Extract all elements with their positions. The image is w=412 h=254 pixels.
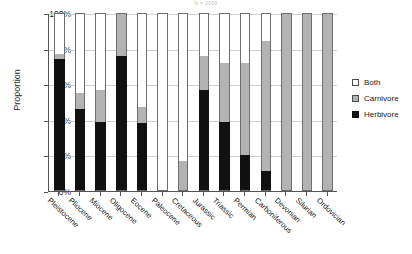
bar-segment-carnivore[interactable] — [281, 13, 292, 191]
bar-segment-carnivore[interactable] — [178, 161, 189, 191]
bar-column[interactable] — [281, 13, 292, 191]
gridline — [49, 14, 337, 15]
bar-segment-herbivore[interactable] — [261, 171, 272, 191]
bar-column[interactable] — [322, 13, 333, 191]
bar-segment-herbivore[interactable] — [219, 122, 230, 191]
bar-column[interactable] — [261, 13, 272, 191]
chart-title: N = 2000 — [0, 0, 412, 6]
legend-swatch-icon — [352, 95, 359, 102]
legend-item-carnivore[interactable]: Carnivore — [352, 94, 399, 103]
bar-segment-carnivore[interactable] — [137, 107, 148, 123]
legend-label: Carnivore — [364, 94, 399, 103]
x-tick-mark — [100, 192, 101, 196]
chart-figure: N = 2000 Proportion 0%20%40%60%80%100% P… — [0, 0, 412, 254]
bar-segment-both[interactable] — [95, 13, 106, 90]
x-tick-mark — [223, 192, 224, 196]
y-axis-title: Proportion — [12, 35, 22, 145]
x-tick-mark — [120, 192, 121, 196]
bar-segment-carnivore[interactable] — [54, 54, 65, 59]
bar-segment-carnivore[interactable] — [199, 56, 210, 90]
x-tick-label-ordovician: Ordovician — [315, 196, 348, 227]
bar-column[interactable] — [116, 13, 127, 191]
bar-segment-both[interactable] — [199, 13, 210, 56]
bar-segment-carnivore[interactable] — [219, 63, 230, 122]
bar-segment-carnivore[interactable] — [261, 41, 272, 171]
gridline — [49, 156, 337, 157]
bar-segment-both[interactable] — [157, 13, 168, 191]
x-tick-mark — [182, 192, 183, 196]
x-tick-mark — [203, 192, 204, 196]
x-tick-mark — [79, 192, 80, 196]
plot-area — [48, 14, 337, 192]
bar-column[interactable] — [240, 13, 251, 191]
x-tick-mark — [265, 192, 266, 196]
bar-segment-carnivore[interactable] — [75, 93, 86, 109]
bar-column[interactable] — [75, 13, 86, 191]
legend-item-herbivore[interactable]: Herbivore — [352, 110, 399, 119]
bar-segment-carnivore[interactable] — [240, 63, 251, 156]
bar-segment-both[interactable] — [178, 13, 189, 161]
bar-column[interactable] — [95, 13, 106, 191]
x-tick-mark — [58, 192, 59, 196]
legend-item-both[interactable]: Both — [352, 78, 399, 87]
legend-label: Herbivore — [364, 110, 399, 119]
bar-segment-both[interactable] — [137, 13, 148, 107]
bar-segment-both[interactable] — [54, 13, 65, 54]
bar-segment-both[interactable] — [261, 13, 272, 41]
bar-column[interactable] — [219, 13, 230, 191]
x-tick-mark — [141, 192, 142, 196]
bar-column[interactable] — [178, 13, 189, 191]
x-tick-mark — [244, 192, 245, 196]
bar-segment-herbivore[interactable] — [54, 59, 65, 191]
legend-swatch-icon — [352, 79, 359, 86]
bar-segment-herbivore[interactable] — [95, 122, 106, 191]
bar-column[interactable] — [199, 13, 210, 191]
bar-segment-herbivore[interactable] — [137, 123, 148, 191]
chart-legend: BothCarnivoreHerbivore — [352, 78, 399, 126]
bar-segment-carnivore[interactable] — [95, 90, 106, 122]
bar-segment-carnivore[interactable] — [322, 13, 333, 191]
bar-segment-both[interactable] — [240, 13, 251, 63]
bar-segment-herbivore[interactable] — [199, 90, 210, 191]
bar-segment-both[interactable] — [75, 13, 86, 93]
bar-segment-carnivore[interactable] — [302, 13, 313, 191]
x-tick-mark — [162, 192, 163, 196]
bar-segment-carnivore[interactable] — [116, 13, 127, 56]
legend-label: Both — [364, 78, 380, 87]
bar-column[interactable] — [137, 13, 148, 191]
x-tick-mark — [306, 192, 307, 196]
bar-column[interactable] — [54, 13, 65, 191]
gridline — [49, 121, 337, 122]
x-tick-mark — [327, 192, 328, 196]
bar-segment-both[interactable] — [219, 13, 230, 63]
x-tick-mark — [285, 192, 286, 196]
gridline — [49, 85, 337, 86]
gridline — [49, 50, 337, 51]
legend-swatch-icon — [352, 111, 359, 118]
bar-column[interactable] — [157, 13, 168, 191]
bar-segment-herbivore[interactable] — [75, 109, 86, 191]
bar-column[interactable] — [302, 13, 313, 191]
bar-segment-herbivore[interactable] — [116, 56, 127, 191]
bar-segment-herbivore[interactable] — [240, 155, 251, 191]
